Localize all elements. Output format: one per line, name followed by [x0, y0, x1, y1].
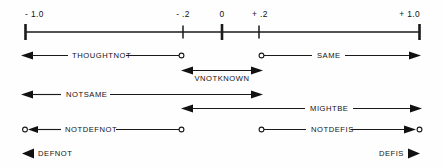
endpoint-defis: DEFIS — [379, 149, 420, 159]
solid-right-triangle-icon — [408, 149, 420, 159]
endpoint-defis-label: DEFIS — [379, 149, 404, 158]
span-notdefis-label: NOTDEFIS — [311, 125, 354, 134]
span-vnotknown: VNOTKNOWN — [181, 67, 263, 84]
open-circle-icon — [23, 127, 28, 132]
span-mightbe-label: MIGHTBE — [310, 104, 348, 113]
arrow-left-icon — [181, 67, 193, 75]
open-circle-icon — [259, 53, 264, 58]
arrow-right-icon — [404, 126, 416, 134]
open-circle-icon — [179, 53, 184, 58]
arrow-left-icon — [21, 91, 33, 99]
span-notsame-label: NOTSAME — [66, 90, 107, 99]
axis-label-plus-point-two: + .2 — [252, 9, 268, 19]
endpoint-defnot: DEFNOT — [22, 149, 73, 159]
arrow-right-icon — [251, 67, 263, 75]
span-notdefis: NOTDEFIS — [259, 125, 422, 134]
arrow-left-icon — [181, 105, 193, 113]
span-vnotknown-label: VNOTKNOWN — [194, 74, 249, 83]
span-notdefnot: NOTDEFNOT — [23, 125, 184, 134]
arrow-left-icon — [21, 52, 33, 60]
span-same-label: SAME — [317, 51, 341, 60]
span-thoughtnot-label: THOUGHTNOT — [72, 51, 131, 60]
open-circle-icon — [417, 127, 422, 132]
arrow-right-icon — [409, 52, 421, 60]
axis-label-minus-point-two: - .2 — [176, 9, 190, 19]
axis-label-plus-one: + 1.0 — [399, 9, 420, 19]
span-mightbe: MIGHTBE — [181, 104, 422, 113]
axis-group: - 1.0 - .2 0 + .2 + 1.0 — [25, 9, 420, 40]
truth-value-scale-figure: - 1.0 - .2 0 + .2 + 1.0 THOUGHTNOT SAME — [0, 0, 443, 168]
span-thoughtnot: THOUGHTNOT — [21, 51, 184, 60]
span-same: SAME — [259, 51, 421, 60]
axis-label-minus-one: - 1.0 — [25, 9, 44, 19]
span-notsame: NOTSAME — [21, 90, 263, 99]
axis-label-zero: 0 — [219, 9, 224, 19]
open-circle-icon — [179, 127, 184, 132]
arrow-left-icon — [28, 126, 38, 133]
span-notdefnot-label: NOTDEFNOT — [65, 125, 117, 134]
endpoint-defnot-label: DEFNOT — [38, 149, 73, 158]
arrow-right-icon — [251, 91, 263, 99]
arrow-right-icon — [410, 105, 422, 113]
open-circle-icon — [259, 127, 264, 132]
solid-left-triangle-icon — [22, 149, 34, 159]
